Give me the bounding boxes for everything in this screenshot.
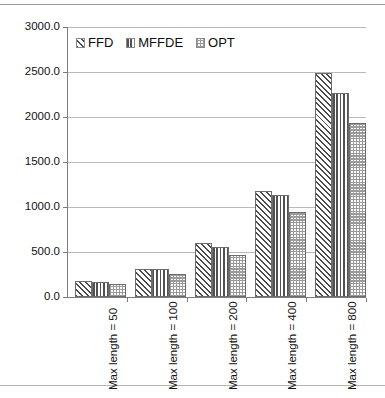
legend-entry-ffd: FFD <box>76 36 113 50</box>
legend-label: OPT <box>208 36 235 50</box>
bar-ffd-1 <box>135 269 152 297</box>
legend-swatch-opt-icon <box>196 38 205 48</box>
legend-label: FFD <box>88 36 113 50</box>
x-tick-mark <box>366 298 367 302</box>
bar-ffd-3 <box>255 191 272 297</box>
bar-chart-figure: 0.0500.01000.01500.02000.02500.03000.0 F… <box>0 0 385 398</box>
bar-opt-3 <box>289 212 306 298</box>
y-tick-label: 3000.0 <box>0 21 60 32</box>
page-rule-bottom <box>0 385 385 386</box>
y-tick-label: 2000.0 <box>0 111 60 122</box>
y-tick-label: 0.0 <box>0 291 60 302</box>
x-tick-mark <box>246 298 247 302</box>
x-category-label-wrap: Max length = 50 <box>95 304 109 390</box>
bar-ffd-4 <box>315 73 332 297</box>
y-tick-label: 1000.0 <box>0 201 60 212</box>
y-axis-line <box>67 27 68 298</box>
bar-opt-0 <box>109 284 126 297</box>
bar-ffd-0 <box>75 281 92 297</box>
x-category-label-wrap: Max length = 800 <box>334 304 348 390</box>
x-tick-mark <box>187 298 188 302</box>
x-tick-mark <box>306 298 307 302</box>
x-category-label: Max length = 800 <box>346 301 358 390</box>
x-category-label-wrap: Max length = 400 <box>274 304 288 390</box>
x-category-label: Max length = 400 <box>286 301 298 390</box>
bar-mffde-1 <box>152 269 169 297</box>
bar-mffde-3 <box>272 195 289 297</box>
bar-group <box>195 27 246 297</box>
y-tick-label: 2500.0 <box>0 66 60 77</box>
plot-area <box>67 27 366 297</box>
bar-group <box>255 27 306 297</box>
legend-label: MFFDE <box>138 36 183 50</box>
x-category-label-wrap: Max length = 100 <box>155 304 169 390</box>
legend-swatch-ffd-icon <box>76 38 85 48</box>
bar-opt-1 <box>169 274 186 297</box>
x-category-label: Max length = 50 <box>107 308 119 390</box>
chart-legend: FFDMFFDEOPT <box>76 36 235 50</box>
bar-ffd-2 <box>195 243 212 297</box>
legend-entry-opt: OPT <box>196 36 235 50</box>
bar-opt-2 <box>229 255 246 297</box>
bar-group <box>75 27 126 297</box>
x-category-label: Max length = 100 <box>167 301 179 390</box>
bar-mffde-0 <box>92 282 109 297</box>
bar-mffde-2 <box>212 247 229 297</box>
y-tick-label: 1500.0 <box>0 156 60 167</box>
y-tick-label: 500.0 <box>0 246 60 257</box>
bar-opt-4 <box>349 123 366 297</box>
x-tick-mark <box>127 298 128 302</box>
page-rule-top <box>0 4 385 5</box>
bar-group <box>135 27 186 297</box>
bar-mffde-4 <box>332 93 349 297</box>
x-category-label: Max length = 200 <box>227 301 239 390</box>
legend-swatch-mffde-icon <box>126 38 135 48</box>
x-category-label-wrap: Max length = 200 <box>215 304 229 390</box>
legend-entry-mffde: MFFDE <box>126 36 183 50</box>
bar-group <box>315 27 366 297</box>
x-axis-line <box>67 297 366 298</box>
